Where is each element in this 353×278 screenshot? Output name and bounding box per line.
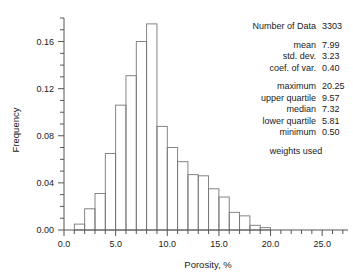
histogram-figure: 0.05.010.015.020.025.00.000.040.080.120.… [0, 0, 353, 278]
histogram-bar [105, 153, 115, 230]
lower-quartile-value: 5.81 [322, 116, 340, 126]
histogram-bar [167, 148, 177, 230]
histogram-bar [188, 175, 198, 230]
lower-quartile-label: lower quartile [262, 116, 316, 126]
histogram-bar [178, 162, 188, 230]
median-label: median [286, 104, 316, 114]
x-tick-label: 0.0 [58, 239, 71, 249]
histogram-bar [74, 224, 84, 230]
x-tick-label: 5.0 [109, 239, 122, 249]
maximum-label: maximum [277, 81, 316, 91]
coef-of-var-label: coef. of var. [269, 63, 316, 73]
y-axis-title: Frequency [10, 107, 21, 152]
median-value: 7.32 [322, 104, 340, 114]
y-tick-label: 0.16 [36, 37, 54, 47]
histogram-bar [157, 126, 167, 230]
histogram-bar [116, 105, 126, 230]
std-dev-label: std. dev. [283, 51, 316, 61]
x-tick-label: 15.0 [210, 239, 228, 249]
statistics-panel: Number of Data3303mean7.99std. dev.3.23c… [252, 21, 344, 156]
minimum-label: minimum [279, 127, 316, 137]
mean-value: 7.99 [322, 40, 340, 50]
histogram-bar [229, 212, 239, 230]
upper-quartile-label: upper quartile [261, 93, 316, 103]
number-of-data-value: 3303 [322, 21, 342, 31]
histogram-bar [198, 176, 208, 230]
histogram-bar [250, 225, 260, 230]
weights-note: weights used [269, 146, 323, 156]
y-tick-label: 0.04 [36, 178, 54, 188]
x-tick-label: 20.0 [262, 239, 280, 249]
number-of-data-label: Number of Data [252, 21, 316, 31]
histogram-bar [209, 189, 219, 230]
porosity-histogram: 0.05.010.015.020.025.00.000.040.080.120.… [0, 0, 353, 278]
histogram-bar [95, 193, 105, 230]
histogram-bar [136, 42, 146, 230]
histogram-bar [147, 24, 157, 230]
y-tick-label: 0.00 [36, 225, 54, 235]
coef-of-var-value: 0.40 [322, 63, 340, 73]
maximum-value: 20.25 [322, 81, 345, 91]
histogram-bar [240, 216, 250, 230]
x-axis-title: Porosity, % [184, 259, 232, 270]
y-tick-label: 0.08 [36, 131, 54, 141]
x-tick-label: 10.0 [159, 239, 177, 249]
mean-label: mean [293, 40, 316, 50]
x-tick-label: 25.0 [313, 239, 331, 249]
histogram-bar [219, 197, 229, 230]
minimum-value: 0.50 [322, 127, 340, 137]
std-dev-value: 3.23 [322, 51, 340, 61]
bars-layer [74, 24, 270, 230]
histogram-bar [126, 76, 136, 230]
upper-quartile-value: 9.57 [322, 93, 340, 103]
y-tick-label: 0.12 [36, 84, 54, 94]
histogram-bar [85, 209, 95, 230]
